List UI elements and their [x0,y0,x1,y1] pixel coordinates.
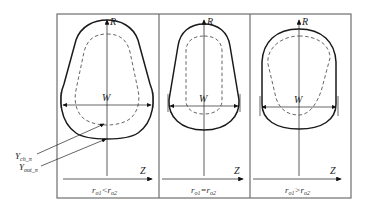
panel-caption: ro1=ro2 [191,185,216,196]
r-axis-label: R [301,16,308,27]
width-label: W [294,94,304,105]
panel-left: R W Z ro1<ro2 [61,16,153,196]
annotations: Ych_π Yout_π [15,124,106,173]
panel-caption: ro1<ro2 [92,185,117,196]
leader-yout [41,139,106,166]
wheel-profile-diagram: R W Z ro1<ro2 Ych_π Yout_π R [0,0,366,211]
panel-middle: R W Z ro1=ro2 [162,16,243,196]
panel-right: R W Z ro1>ro2 [253,16,341,196]
label-y-out: Yout_π [19,162,39,173]
z-axis-label: Z [234,165,240,176]
width-label: W [102,92,112,103]
label-y-ch: Ych_π [15,151,33,162]
z-axis-label: Z [330,165,336,176]
z-axis-label: Z [140,165,146,176]
width-label: W [199,93,209,104]
panel-caption: ro1>ro2 [285,185,310,196]
